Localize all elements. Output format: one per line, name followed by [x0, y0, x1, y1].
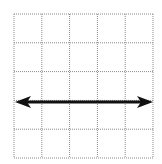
double-headed-arrow [15, 96, 153, 108]
dotted-grid [14, 14, 153, 158]
grid-diagram [0, 0, 162, 164]
